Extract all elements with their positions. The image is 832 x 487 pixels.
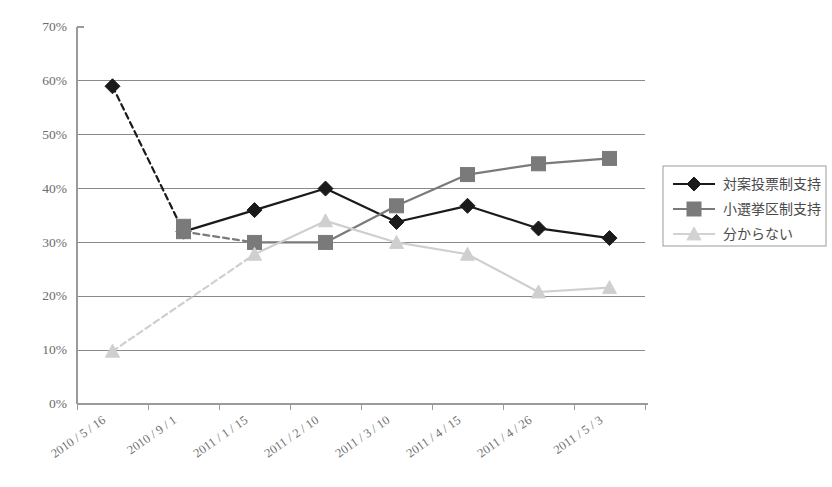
x-axis-tick-label: 2011 / 4 / 26 — [475, 413, 534, 460]
series-segment — [255, 189, 326, 211]
x-axis-ticks — [77, 404, 645, 410]
data-point-diamond — [247, 203, 262, 218]
legend-label: 対案投票制支持 — [723, 176, 821, 192]
y-axis-tick-label: 0% — [49, 396, 67, 411]
line-chart: 0%10%20%30%40%50%60%70% 2010 / 5 / 16201… — [0, 0, 832, 487]
y-axis-tick-label: 30% — [42, 235, 67, 250]
series-segment — [184, 232, 255, 243]
x-axis-tick-label: 2010 / 5 / 16 — [48, 413, 108, 461]
series-segment — [539, 158, 610, 163]
series-lines-group — [113, 86, 610, 351]
y-axis-tick-label: 40% — [42, 181, 67, 196]
data-point-square — [390, 199, 404, 213]
series-segment — [255, 221, 326, 254]
series-segment — [468, 164, 539, 175]
data-point-square — [461, 168, 475, 182]
chart-legend: 対案投票制支持小選挙区制支持分からない — [663, 166, 826, 246]
y-axis-tick-label: 20% — [42, 288, 67, 303]
data-point-triangle — [106, 344, 120, 357]
data-point-square — [319, 235, 333, 249]
series-segment — [397, 242, 468, 254]
y-axis-tick-labels: 0%10%20%30%40%50%60%70% — [42, 19, 67, 411]
x-axis-tick-label: 2011 / 2 / 10 — [262, 413, 321, 460]
series-segment — [113, 254, 255, 351]
series-segment — [397, 175, 468, 206]
series-segment — [184, 210, 255, 232]
y-axis-tick-label: 60% — [42, 73, 67, 88]
series-segment — [539, 228, 610, 238]
y-axis-tick-label: 10% — [42, 342, 67, 357]
data-point-diamond — [318, 181, 333, 196]
data-point-triangle — [319, 214, 333, 227]
y-axis-tick-label: 70% — [42, 19, 67, 34]
data-point-square — [532, 157, 546, 171]
x-axis-tick-labels: 2010 / 5 / 162010 / 9 / 12011 / 1 / 1520… — [48, 413, 605, 461]
data-point-diamond — [389, 214, 404, 229]
x-axis-tick-label: 2010 / 9 / 1 — [125, 413, 180, 457]
legend-label: 分からない — [723, 226, 793, 242]
data-point-square — [177, 219, 191, 233]
data-point-square — [687, 202, 701, 216]
data-point-square — [603, 151, 617, 165]
series-segment — [113, 86, 184, 231]
data-point-diamond — [460, 198, 475, 213]
series-segment — [468, 254, 539, 292]
x-axis-tick-label: 2011 / 5 / 3 — [551, 413, 605, 457]
chart-container: 0%10%20%30%40%50%60%70% 2010 / 5 / 16201… — [0, 0, 832, 487]
series-segment — [539, 288, 610, 292]
x-axis-tick-label: 2011 / 3 / 10 — [333, 413, 392, 460]
data-point-diamond — [531, 221, 546, 236]
data-point-diamond — [602, 231, 617, 246]
series-segment — [397, 206, 468, 222]
y-axis-tick-label: 50% — [42, 127, 67, 142]
x-axis-tick-label: 2011 / 1 / 15 — [191, 413, 250, 460]
x-axis-tick-label: 2011 / 4 / 15 — [404, 413, 463, 460]
gridlines-group — [77, 81, 645, 350]
series-segment — [326, 189, 397, 222]
series-segment — [468, 206, 539, 229]
legend-label: 小選挙区制支持 — [723, 201, 821, 217]
axes-group — [77, 27, 648, 404]
series-markers-group — [105, 79, 617, 357]
